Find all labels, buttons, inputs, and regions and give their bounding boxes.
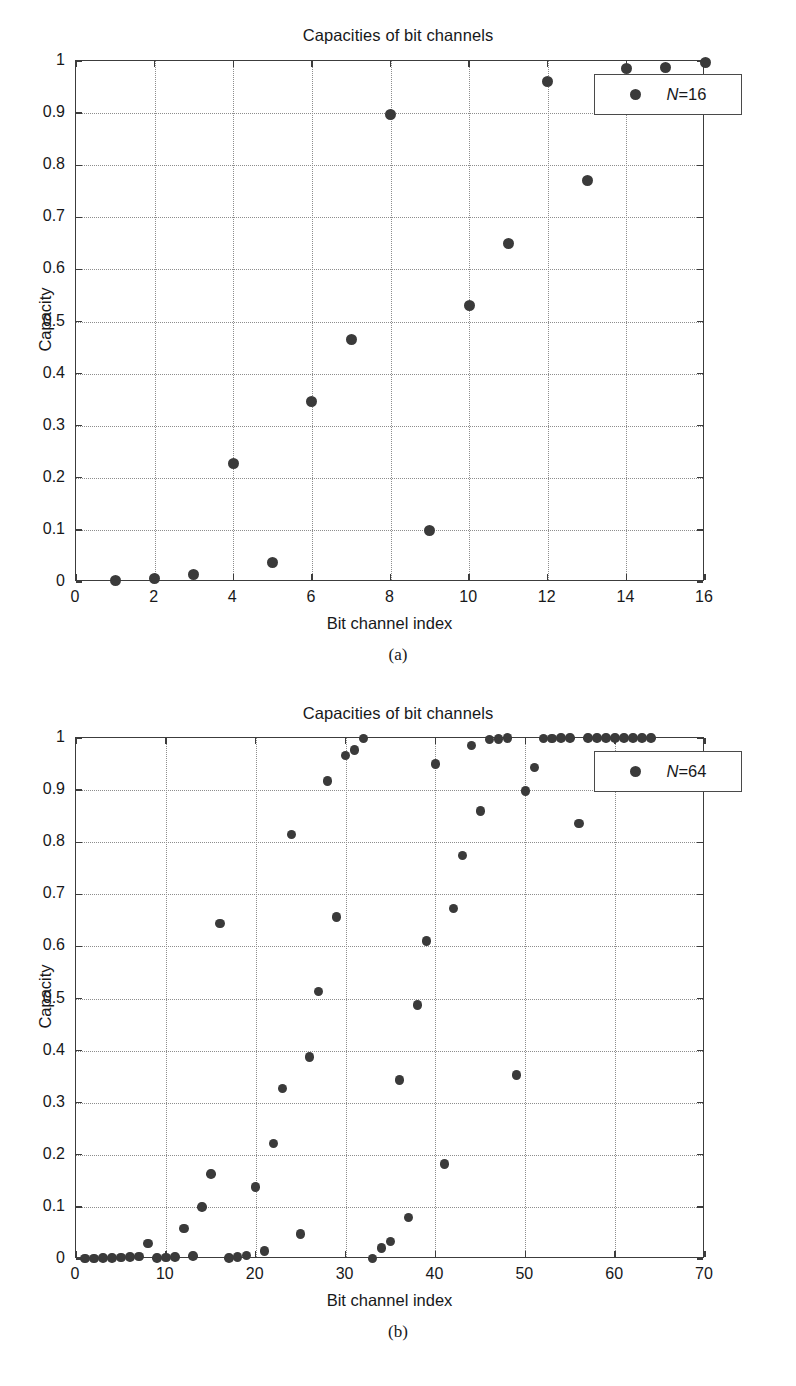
- data-point: [197, 1202, 207, 1212]
- x-axis-tick-label: 8: [385, 588, 394, 606]
- y-axis-tick-label: 0.8: [0, 155, 65, 173]
- x-axis-tick: [435, 738, 436, 744]
- data-point: [542, 76, 553, 87]
- x-axis-tick: [345, 738, 346, 744]
- y-axis-tick-label: 0.7: [0, 207, 65, 225]
- data-point: [134, 1252, 144, 1262]
- chart-a-plot: [75, 60, 704, 581]
- data-point: [440, 1159, 450, 1169]
- y-axis-tick: [697, 425, 703, 426]
- y-axis-tick: [76, 737, 82, 738]
- data-point: [494, 734, 504, 744]
- data-point: [260, 1246, 270, 1256]
- data-point: [215, 919, 225, 929]
- gridline-horizontal: [76, 1155, 703, 1156]
- x-axis-tick: [154, 61, 155, 67]
- y-axis-tick: [76, 581, 82, 582]
- y-axis-tick-label: 0.5: [0, 989, 65, 1007]
- data-point: [267, 557, 278, 568]
- x-axis-tick: [626, 574, 627, 580]
- data-point: [278, 1084, 288, 1094]
- data-point: [251, 1182, 261, 1192]
- y-axis-tick: [697, 321, 703, 322]
- chart-b-plot-area: [75, 737, 704, 1258]
- data-point: [306, 396, 317, 407]
- y-axis-tick-label: 0.8: [0, 832, 65, 850]
- y-axis-tick-label: 0.5: [0, 312, 65, 330]
- chart-b-legend[interactable]: N=64: [594, 751, 742, 792]
- gridline-vertical: [548, 61, 549, 580]
- data-point: [476, 806, 486, 816]
- y-axis-tick-label: 0.7: [0, 884, 65, 902]
- data-point: [464, 300, 475, 311]
- data-point: [269, 1139, 279, 1149]
- data-point: [170, 1252, 180, 1262]
- y-axis-tick: [76, 1102, 82, 1103]
- y-axis-tick: [76, 1050, 82, 1051]
- y-axis-tick: [76, 998, 82, 999]
- y-axis-tick: [76, 1206, 82, 1207]
- x-axis-tick: [704, 1251, 705, 1257]
- data-point: [574, 819, 584, 829]
- y-axis-tick-label: 0.2: [0, 468, 65, 486]
- x-axis-tick-label: 40: [426, 1265, 444, 1283]
- y-axis-tick: [76, 112, 82, 113]
- x-axis-tick: [311, 574, 312, 580]
- gridline-vertical: [615, 738, 616, 1257]
- legend-marker-icon: [630, 766, 641, 777]
- legend-variable-n: N: [667, 85, 679, 103]
- legend-equals: =: [678, 85, 688, 103]
- y-axis-tick: [697, 737, 703, 738]
- x-axis-tick: [704, 574, 705, 580]
- x-axis-tick: [614, 1251, 615, 1257]
- gridline-vertical: [166, 738, 167, 1257]
- x-axis-tick: [255, 738, 256, 744]
- legend-value: 16: [688, 85, 706, 103]
- y-axis-tick-label: 0.1: [0, 520, 65, 538]
- gridline-horizontal: [76, 426, 703, 427]
- x-axis-tick-label: 30: [336, 1265, 354, 1283]
- data-point: [359, 734, 369, 744]
- gridline-vertical: [312, 61, 313, 580]
- data-point: [377, 1243, 387, 1253]
- x-axis-tick-label: 10: [156, 1265, 174, 1283]
- gridline-horizontal: [76, 217, 703, 218]
- y-axis-tick: [697, 946, 703, 947]
- chart-a-legend[interactable]: N=16: [594, 74, 742, 115]
- x-axis-tick: [390, 574, 391, 580]
- legend-marker-icon: [630, 89, 641, 100]
- data-point: [110, 575, 121, 586]
- panel-b: Capacities of bit channels Bit channel i…: [0, 690, 796, 1386]
- y-axis-tick: [697, 1258, 703, 1259]
- data-point: [449, 904, 459, 914]
- y-axis-tick: [697, 269, 703, 270]
- data-point: [350, 745, 360, 755]
- data-point: [485, 735, 495, 745]
- x-axis-tick: [75, 738, 76, 744]
- data-point: [521, 786, 531, 796]
- x-axis-tick: [165, 738, 166, 744]
- x-axis-tick: [311, 61, 312, 67]
- chart-a-xaxis-title: Bit channel index: [75, 614, 704, 633]
- data-point: [646, 733, 656, 743]
- y-axis-tick: [76, 529, 82, 530]
- data-point: [422, 936, 432, 946]
- gridline-horizontal: [76, 374, 703, 375]
- data-point: [413, 1000, 423, 1010]
- x-axis-tick: [75, 1251, 76, 1257]
- data-point: [332, 912, 342, 922]
- y-axis-tick-label: 0.9: [0, 103, 65, 121]
- x-axis-tick: [547, 574, 548, 580]
- data-point: [228, 458, 239, 469]
- data-point: [385, 109, 396, 120]
- data-point: [512, 1070, 522, 1080]
- y-axis-tick: [76, 321, 82, 322]
- y-axis-tick: [697, 529, 703, 530]
- y-axis-tick: [697, 894, 703, 895]
- gridline-vertical: [256, 738, 257, 1257]
- data-point: [404, 1213, 414, 1223]
- x-axis-tick: [255, 1251, 256, 1257]
- x-axis-tick-label: 0: [71, 1265, 80, 1283]
- x-axis-tick: [75, 574, 76, 580]
- y-axis-tick: [76, 477, 82, 478]
